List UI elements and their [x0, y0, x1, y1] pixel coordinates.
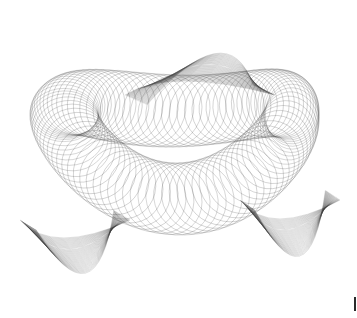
ribbon-loops [20, 53, 340, 273]
corner-mark [354, 297, 356, 311]
ribbon-line-art [0, 0, 357, 318]
ribbon-surface [29, 58, 322, 250]
